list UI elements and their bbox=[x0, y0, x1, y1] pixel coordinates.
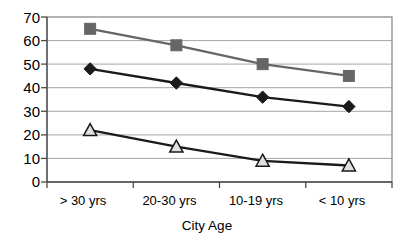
x-tick-label: 10-19 yrs bbox=[213, 194, 299, 207]
data-point-square bbox=[85, 23, 96, 34]
x-axis bbox=[47, 182, 392, 188]
x-axis-title: City Age bbox=[0, 219, 414, 233]
data-point-square bbox=[171, 40, 182, 51]
y-axis bbox=[41, 17, 47, 182]
line-chart: 70 60 50 40 30 20 10 0 bbox=[0, 0, 414, 250]
plot-frame bbox=[47, 17, 392, 182]
x-tick-label: 20-30 yrs bbox=[126, 194, 213, 207]
data-point-square bbox=[257, 59, 268, 70]
data-point-square bbox=[343, 70, 354, 81]
x-tick-label: < 10 yrs bbox=[299, 194, 385, 207]
plot-area bbox=[0, 0, 414, 250]
x-tick-label: > 30 yrs bbox=[40, 194, 126, 207]
